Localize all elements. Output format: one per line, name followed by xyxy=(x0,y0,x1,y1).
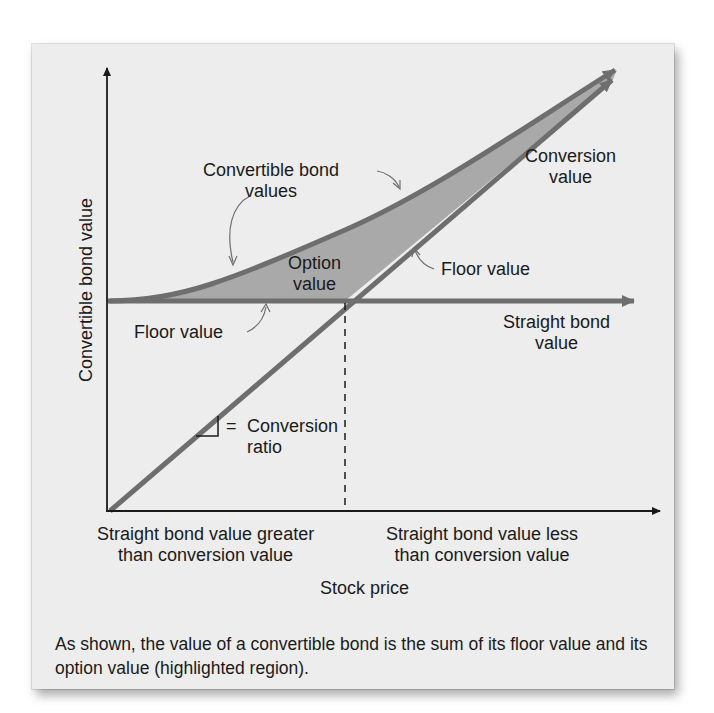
label-line: Conversion xyxy=(247,416,338,437)
label-line: values xyxy=(203,181,339,202)
floor-value-left-label: Floor value xyxy=(134,322,223,343)
label-line: ratio xyxy=(247,437,338,458)
region-right-label: Straight bond value less than conversion… xyxy=(386,524,578,566)
label-line: than conversion value xyxy=(386,545,578,566)
label-line: value xyxy=(288,274,341,295)
pointer-floor-left xyxy=(247,307,266,332)
conversion-ratio-label: Conversion ratio xyxy=(247,416,338,458)
label-line: Straight bond value greater xyxy=(97,524,314,545)
region-left-label: Straight bond value greater than convers… xyxy=(97,524,314,566)
label-line: Straight bond xyxy=(503,312,610,333)
x-axis-label: Stock price xyxy=(320,578,409,599)
convertible-bond-values-label: Convertible bond values xyxy=(203,160,339,202)
y-axis-label: Convertible bond value xyxy=(76,198,97,382)
pointer-head-icon xyxy=(393,180,400,189)
label-line: value xyxy=(503,333,610,354)
floor-value-right-label: Floor value xyxy=(441,259,530,280)
convertible-bond-diagram xyxy=(0,0,714,713)
label-line: than conversion value xyxy=(97,545,314,566)
label-line: Convertible bond xyxy=(203,160,339,181)
label-line: Straight bond value less xyxy=(386,524,578,545)
option-value-label: Option value xyxy=(288,253,341,295)
figure-caption: As shown, the value of a convertible bon… xyxy=(55,632,665,680)
pointer-convertible-curve xyxy=(230,196,250,262)
label-line: Option xyxy=(288,253,341,274)
conversion-ratio-equals: = xyxy=(226,416,237,437)
label-line: Conversion xyxy=(525,146,616,167)
straight-bond-value-label: Straight bond value xyxy=(503,312,610,354)
conversion-value-label: Conversion value xyxy=(525,146,616,188)
label-line: value xyxy=(525,167,616,188)
